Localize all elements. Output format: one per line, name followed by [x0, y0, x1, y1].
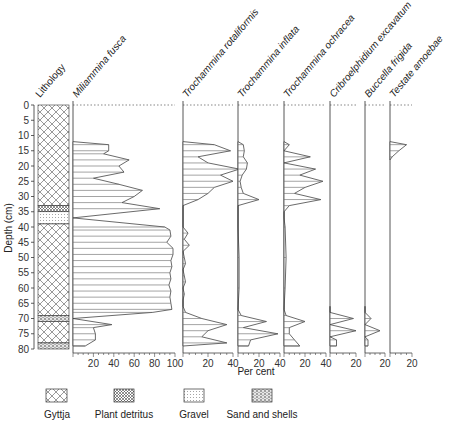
- depth-tick-label: 0: [23, 100, 29, 111]
- pollen-diagram: 05101520253035404550556065707580 Depth (…: [0, 0, 452, 424]
- lithology-unit: [38, 343, 69, 349]
- depth-tick-label: 40: [18, 222, 30, 233]
- depth-tick-label: 80: [18, 344, 30, 355]
- percent-tick-label: 20: [379, 358, 391, 369]
- y-axis-label: Depth (cm): [3, 203, 14, 252]
- species-panel: Testate amoebae20: [387, 33, 445, 369]
- depth-tick-label: 5: [23, 115, 29, 126]
- lithology-unit: [38, 105, 69, 206]
- species-panel: Trochammina rotaliformis2040: [180, 6, 260, 369]
- depth-tick-label: 50: [18, 252, 30, 263]
- depth-tick-label: 75: [18, 328, 30, 339]
- depth-tick-label: 65: [18, 298, 30, 309]
- species-curve: [183, 142, 239, 346]
- depth-tick-label: 55: [18, 267, 30, 278]
- legend-swatch-gravel: [184, 389, 204, 402]
- depth-tick-label: 60: [18, 283, 30, 294]
- species-name: Miliammina fusca: [70, 33, 128, 100]
- depth-tick-label: 45: [18, 237, 30, 248]
- species-panel: Trochammina ochracea2040: [281, 12, 357, 369]
- depth-tick-label: 30: [18, 191, 30, 202]
- legend-label-plant-detritus: Plant detritus: [95, 409, 153, 420]
- x-axis-label: Per cent: [237, 366, 274, 377]
- percent-tick-label: 80: [149, 358, 161, 369]
- lithology-unit: [38, 206, 69, 212]
- species-curve: [238, 142, 278, 346]
- depth-tick-label: 10: [18, 130, 30, 141]
- species-panels: Miliammina fusca20406080100Trochammina r…: [70, 0, 445, 369]
- legend-label-sand-and-shells: Sand and shells: [226, 409, 297, 420]
- depth-tick-label: 15: [18, 145, 30, 156]
- percent-tick-label: 20: [202, 358, 214, 369]
- percent-tick-label: 20: [88, 358, 100, 369]
- depth-tick-label: 70: [18, 313, 30, 324]
- legend-label-gyttja: Gyttja: [44, 409, 71, 420]
- lithology-unit: [38, 224, 69, 316]
- legend-label-gravel: Gravel: [179, 409, 208, 420]
- percent-tick-label: 20: [406, 358, 418, 369]
- legend-swatch-sand-and-shells: [252, 389, 272, 402]
- depth-axis: 05101520253035404550556065707580: [18, 100, 34, 355]
- legend-swatch-gyttja: [46, 389, 67, 402]
- lithology-unit: [38, 212, 69, 224]
- percent-tick-label: 60: [129, 358, 141, 369]
- lithology-unit: [38, 315, 69, 321]
- depth-tick-label: 35: [18, 206, 30, 217]
- lithology-column: [38, 105, 69, 349]
- percent-tick-label: 100: [167, 358, 184, 369]
- percent-tick-label: 20: [299, 358, 311, 369]
- species-panel: Miliammina fusca20406080100: [70, 33, 184, 369]
- legend-swatch-plant-detritus: [114, 389, 134, 402]
- depth-tick-label: 20: [18, 161, 30, 172]
- species-curve: [284, 142, 323, 346]
- percent-tick-label: 40: [320, 358, 332, 369]
- percent-tick-label: 40: [274, 358, 286, 369]
- depth-tick-label: 25: [18, 176, 30, 187]
- lithology-header: Lithology: [33, 62, 67, 100]
- percent-tick-label: 40: [108, 358, 120, 369]
- species-panel: Buccella frigida20: [362, 40, 414, 369]
- legend: Gyttja Plant detritus Gravel Sand and sh…: [44, 389, 298, 420]
- percent-tick-label: 20: [350, 358, 362, 369]
- lithology-unit: [38, 322, 69, 343]
